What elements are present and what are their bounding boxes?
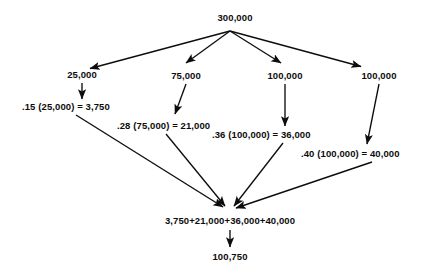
arrow-calc2-to-sum — [166, 134, 225, 206]
node-total: 100,750 — [212, 251, 247, 262]
tax-bracket-flow-diagram: 300,000 25,000 75,000 100,000 100,000 .1… — [0, 0, 425, 278]
node-branch-3: 100,000 — [267, 70, 302, 81]
node-branch-2: 75,000 — [171, 70, 201, 81]
arrow-calc3-to-sum — [234, 143, 283, 206]
arrow-root-to-branch1 — [90, 31, 230, 69]
arrow-calc4-to-sum — [236, 162, 372, 208]
node-calc-4: .40 (100,000) = 40,000 — [301, 148, 400, 159]
node-calc-2: .28 (75,000) = 21,000 — [117, 120, 210, 131]
node-branch-1: 25,000 — [67, 69, 97, 80]
arrow-branch2-to-calc2 — [175, 84, 186, 114]
node-sum: 3,750+21,000+36,000+40,000 — [165, 215, 295, 226]
arrow-branch4-to-calc4 — [367, 84, 379, 144]
node-branch-4: 100,000 — [361, 70, 396, 81]
arrow-root-to-branch4 — [230, 31, 361, 67]
node-root: 300,000 — [217, 12, 252, 23]
arrow-root-to-branch3 — [230, 31, 281, 63]
node-calc-1: .15 (25,000) = 3,750 — [22, 101, 110, 112]
arrow-root-to-branch2 — [186, 31, 230, 63]
node-calc-3: .36 (100,000) = 36,000 — [212, 129, 311, 140]
